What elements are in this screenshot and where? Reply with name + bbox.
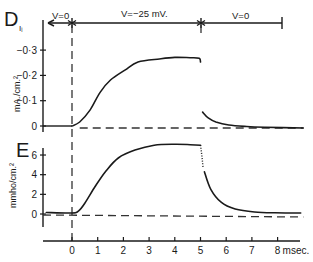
d-series-current bbox=[72, 57, 201, 126]
e-y-axis-label: mmho/cm.² bbox=[8, 163, 18, 208]
d-y-tick-label: 0 bbox=[31, 121, 37, 132]
x-tick-label: 8 bbox=[275, 245, 281, 256]
voltage-label-v-minus25: V=−25 mV. bbox=[121, 8, 168, 19]
e-y-tick-label: 0 bbox=[31, 209, 37, 220]
panel-label-d-subscript: Iᵢ bbox=[19, 24, 22, 33]
x-tick-label: 0 bbox=[69, 245, 75, 256]
x-tick-label: 6 bbox=[223, 245, 229, 256]
voltage-label-v0-right: V=0 bbox=[232, 10, 249, 21]
x-tick-label: 4 bbox=[172, 245, 178, 256]
panel-label-e: E bbox=[16, 139, 29, 161]
x-tick-label: 1 bbox=[95, 245, 101, 256]
time-axis: 012345678 msec. bbox=[43, 237, 309, 256]
e-series-extrapolated bbox=[201, 145, 204, 168]
panel-d-current: 0−0·1−0·2−0·3 bbox=[17, 20, 304, 132]
d-y-tick-label: −0·3 bbox=[17, 45, 38, 56]
d-series-tail bbox=[203, 112, 304, 128]
e-y-tick-label: 2 bbox=[31, 189, 37, 200]
d-y-tick-label: −0·2 bbox=[17, 70, 38, 81]
x-tick-label: 7 bbox=[249, 245, 255, 256]
d-y-tick-label: −0·1 bbox=[17, 95, 38, 106]
x-tick-label: 3 bbox=[146, 245, 152, 256]
x-axis-unit-label: msec. bbox=[283, 245, 310, 256]
e-series-rise bbox=[46, 144, 200, 213]
voltage-step-annotation: V=0 V=−25 mV. V=0 bbox=[48, 8, 282, 29]
e-y-tick-label: 6 bbox=[31, 150, 37, 161]
e-zero-baseline bbox=[43, 215, 303, 217]
e-series-decay bbox=[204, 172, 300, 213]
figure: D Iᵢ E mA./cm.² mmho/cm.² V=0 V=−25 mV. … bbox=[0, 0, 313, 262]
x-tick-label: 5 bbox=[198, 245, 204, 256]
d-y-axis-label: mA./cm.² bbox=[12, 76, 22, 112]
panel-label-d: D bbox=[4, 8, 18, 30]
x-tick-label: 2 bbox=[121, 245, 127, 256]
e-y-tick-label: 4 bbox=[31, 169, 37, 180]
voltage-label-v0-left: V=0 bbox=[52, 10, 69, 21]
